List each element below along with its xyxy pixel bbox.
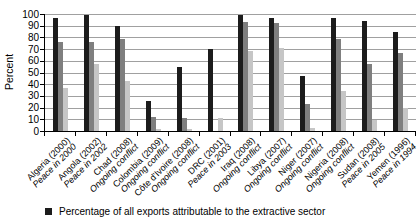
bar-series3-Chad (2008) [125,81,130,131]
x-tick-mark-2 [106,132,107,136]
gridline-30 [45,96,416,97]
x-tick-mark-10 [353,132,354,136]
legend: Percentage of all exports attributable t… [45,206,325,218]
gridline-20 [45,108,416,109]
bar-series3-Niger (2007) [310,128,315,132]
bar-series3-Sudan (2008) [372,120,377,131]
y-tick-label-20: 20 [0,102,39,113]
bar-series3-Iraq (2008) [248,51,253,131]
x-tick-mark-1 [75,132,76,136]
x-tick-mark-0 [44,132,45,136]
y-tick-label-50: 50 [0,67,39,78]
bar-series3-Nigeria (2008) [341,91,346,131]
y-tick-label-80: 80 [0,32,39,43]
y-tick-mark-10 [40,119,44,120]
y-tick-label-100: 100 [0,9,39,20]
plot-area [44,14,416,132]
y-tick-mark-60 [40,61,44,62]
bar-series3-Algeria (2000) [63,88,68,131]
y-tick-mark-50 [40,73,44,74]
y-tick-label-90: 90 [0,20,39,31]
y-tick-mark-40 [40,84,44,85]
y-tick-mark-100 [40,14,44,15]
gridline-50 [45,73,416,74]
y-tick-label-70: 70 [0,44,39,55]
y-tick-label-40: 40 [0,79,39,90]
gridline-100 [45,14,416,15]
gridline-80 [45,37,416,38]
legend-swatch-series1 [45,208,52,215]
gridline-90 [45,26,416,27]
gridline-70 [45,49,416,50]
bar-series3-Libya (2007) [279,48,284,131]
y-tick-mark-70 [40,49,44,50]
legend-label-series1: Percentage of all exports attributable t… [59,206,325,218]
x-tick-mark-6 [230,132,231,136]
bar-series3-DRC (2001) [218,118,223,131]
x-tick-mark-12 [415,132,416,136]
y-tick-label-30: 30 [0,90,39,101]
x-tick-mark-5 [199,132,200,136]
gridline-40 [45,84,416,85]
x-tick-mark-3 [137,132,138,136]
y-tick-label-10: 10 [0,114,39,125]
bar-series1-DRC (2001) [208,49,213,131]
y-tick-mark-30 [40,96,44,97]
x-tick-mark-8 [291,132,292,136]
gridline-60 [45,61,416,62]
y-tick-mark-80 [40,37,44,38]
y-tick-label-60: 60 [0,55,39,66]
y-tick-mark-90 [40,26,44,27]
y-tick-label-0: 0 [0,126,39,137]
bar-chart-figure: Percent Percentage of all exports attrib… [0,0,418,219]
x-tick-mark-7 [260,132,261,136]
x-tick-mark-4 [168,132,169,136]
bar-series3-Côte d'Ivoire (2008) [187,129,192,131]
x-tick-mark-9 [322,132,323,136]
y-tick-mark-20 [40,108,44,109]
x-tick-mark-11 [384,132,385,136]
bar-series3-Colombia (2009) [156,129,161,131]
bar-series3-Yemen (1996) [403,108,408,131]
gridline-10 [45,119,416,120]
bar-series3-Angola (2002) [94,64,99,131]
